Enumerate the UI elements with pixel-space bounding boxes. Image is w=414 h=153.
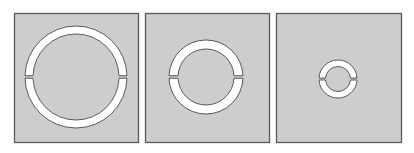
- panel-background: [277, 14, 402, 143]
- split-ring-diagram: [0, 0, 414, 153]
- panel-background: [146, 14, 270, 143]
- split-ring-figure: [0, 0, 414, 153]
- panel-1: [15, 14, 139, 143]
- panel-3: [277, 14, 402, 143]
- panel-2: [146, 14, 270, 143]
